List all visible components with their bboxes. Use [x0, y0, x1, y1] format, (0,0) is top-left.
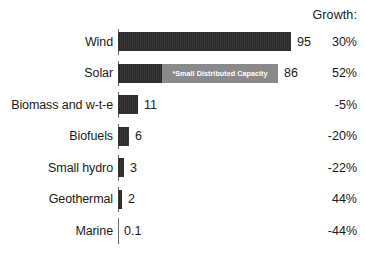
bar-group-geothermal: 2 — [118, 184, 135, 216]
category-label-biomass: Biomass and w-t-e — [0, 98, 118, 112]
bar-solar: *Small Distributed Capacity — [118, 64, 278, 83]
bar-segment-main — [118, 95, 138, 114]
category-label-small-hydro: Small hydro — [0, 161, 118, 175]
value-label-marine: 0.1 — [118, 224, 141, 238]
value-label-small-hydro: 3 — [124, 161, 137, 175]
bar-segment-distributed: *Small Distributed Capacity — [162, 64, 278, 83]
value-label-geothermal: 2 — [122, 192, 135, 206]
bar-group-marine: 0.1 — [118, 215, 141, 247]
growth-value-solar: 52% — [295, 58, 357, 90]
bar-segment-main — [118, 32, 291, 51]
bar-group-solar: *Small Distributed Capacity 86 — [118, 58, 298, 90]
bar-geothermal — [118, 190, 122, 209]
bar-biomass — [118, 95, 138, 114]
category-label-marine: Marine — [0, 224, 118, 238]
category-label-wind: Wind — [0, 35, 118, 49]
category-label-solar: Solar — [0, 66, 118, 80]
chart-row-marine: Marine 0.1 -44% — [0, 215, 365, 247]
bar-segment-main — [118, 158, 124, 177]
bar-annotation-small-distributed-capacity: *Small Distributed Capacity — [169, 69, 270, 78]
bar-small-hydro — [118, 158, 124, 177]
value-label-solar: 86 — [278, 66, 298, 80]
bar-group-biofuels: 6 — [118, 121, 142, 153]
value-label-biofuels: 6 — [129, 129, 142, 143]
chart-rows: Wind 95 30% Solar — [0, 26, 365, 247]
bar-group-small-hydro: 3 — [118, 152, 137, 184]
chart-row-small-hydro: Small hydro 3 -22% — [0, 152, 365, 184]
value-label-wind: 95 — [291, 35, 311, 49]
bar-segment-main — [118, 190, 122, 209]
growth-value-geothermal: 44% — [295, 184, 357, 216]
growth-value-marine: -44% — [295, 215, 357, 247]
growth-value-small-hydro: -22% — [295, 152, 357, 184]
chart-row-solar: Solar *Small Distributed Capacity 86 52% — [0, 58, 365, 90]
bar-group-biomass: 11 — [118, 89, 157, 121]
bar-group-wind: 95 — [118, 26, 311, 58]
bar-biofuels — [118, 127, 129, 146]
category-label-geothermal: Geothermal — [0, 192, 118, 206]
growth-value-biomass: -5% — [295, 89, 357, 121]
growth-value-biofuels: -20% — [295, 121, 357, 153]
value-label-biomass: 11 — [138, 98, 157, 112]
bar-segment-main — [118, 127, 129, 146]
chart-row-biofuels: Biofuels 6 -20% — [0, 121, 365, 153]
bar-chart: Growth: Wind 95 30% Solar — [0, 0, 365, 280]
bar-wind — [118, 32, 291, 51]
bar-segment-main — [118, 64, 162, 83]
chart-row-wind: Wind 95 30% — [0, 26, 365, 58]
category-label-biofuels: Biofuels — [0, 129, 118, 143]
chart-row-biomass: Biomass and w-t-e 11 -5% — [0, 89, 365, 121]
chart-row-geothermal: Geothermal 2 44% — [0, 184, 365, 216]
growth-column-header: Growth: — [295, 8, 357, 22]
